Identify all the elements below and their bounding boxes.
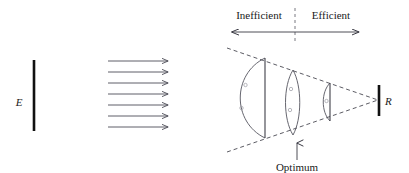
emitter-label: E [15,96,23,108]
lens-optimum-middle [286,70,300,135]
inefficient-label: Inefficient [236,9,282,21]
optimum-label: Optimum [276,161,319,173]
efficient-label: Efficient [312,9,350,21]
lens-curved-surface-left [286,70,294,135]
lens-curved-surface [323,83,330,121]
emitter-group: E [15,60,36,131]
cone-upper-dashed-line [227,48,378,100]
lens-hatch-mark [289,87,292,90]
lens-hatch-mark [325,99,328,102]
receiver-group: R [378,85,392,116]
efficiency-zone-group: Inefficient Efficient [232,8,359,43]
lens-curved-surface [240,58,265,138]
convergence-cone [227,48,378,152]
figure-root: E Inefficient Efficient [0,0,409,173]
lens-inefficient-large [240,58,265,138]
lens-efficient-small [323,83,330,121]
receiver-bar [378,85,381,116]
optimum-callout: Optimum [276,143,319,173]
receiver-label: R [384,95,392,107]
lens-curved-surface-right [293,70,300,135]
optical-efficiency-diagram: E Inefficient Efficient [0,0,409,173]
lens-hatch-mark [288,108,291,111]
parallel-ray-bundle [108,61,168,127]
lens-hatch-mark [244,83,247,86]
emitter-bar [33,60,36,131]
